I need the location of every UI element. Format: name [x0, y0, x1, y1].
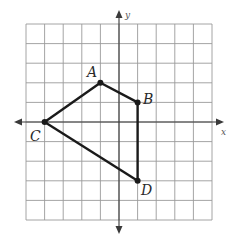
vertex-point-b: [135, 99, 141, 105]
vertex-label-d: D: [140, 182, 152, 198]
y-axis-down-arrow-icon: [116, 226, 123, 234]
y-axis-up-arrow-icon: [116, 10, 123, 18]
edge-dc: [45, 122, 138, 181]
vertex-point-c: [42, 119, 48, 125]
x-axis-label: x: [221, 127, 226, 137]
coordinate-plane: x y A B D C: [0, 0, 236, 242]
x-axis-left-arrow-icon: [14, 119, 22, 126]
vertex-label-c: C: [30, 128, 41, 144]
x-axis-right-arrow-icon: [216, 119, 224, 126]
vertex-point-d: [135, 178, 141, 184]
vertex-label-a: A: [85, 64, 97, 80]
vertex-label-b: B: [142, 91, 153, 107]
quadrilateral-abdc: [45, 83, 138, 181]
vertex-point-a: [97, 80, 103, 86]
y-axis-label: y: [124, 10, 131, 20]
